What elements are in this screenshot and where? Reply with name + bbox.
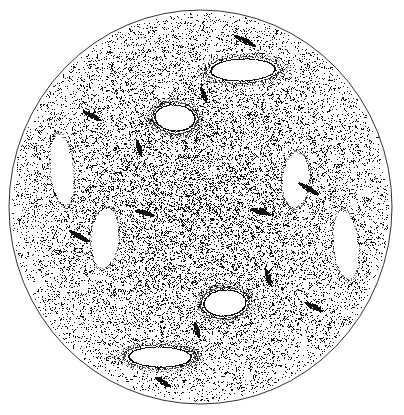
poincare-section-figure: Poincare surface of section [0, 0, 404, 415]
scatter-plot-canvas [0, 0, 404, 415]
